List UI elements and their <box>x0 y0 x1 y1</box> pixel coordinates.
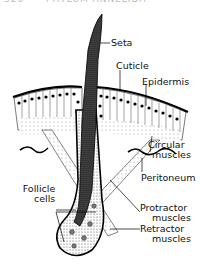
peritoneum-line <box>20 147 48 153</box>
label-epidermis: Epidermis <box>142 77 189 87</box>
label-seta: Seta <box>111 38 132 48</box>
label-cuticle: Cuticle <box>116 61 149 71</box>
label-follicle-cells: Follicle cells <box>18 184 55 204</box>
label-retractor-muscles: Retractor muscles <box>140 224 191 244</box>
label-protractor-muscles: Protractor muscles <box>140 203 191 223</box>
label-peritoneum: Peritoneum <box>141 173 195 183</box>
label-circular-muscles: Circular muscles <box>148 140 191 160</box>
epidermis-layer <box>13 86 188 142</box>
